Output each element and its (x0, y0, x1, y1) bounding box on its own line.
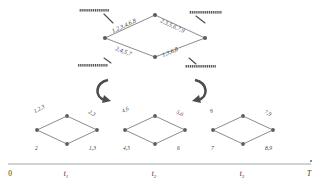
product-edge-label-0: 1,2,3,4,6,8 (111, 18, 137, 34)
diamond-t1-node-left (35, 128, 39, 132)
diamond-t3-node-top (241, 114, 245, 118)
diamond-t2-edge-label-2: 4,5 (123, 145, 130, 151)
bar-bottom-right-pointer (189, 58, 196, 64)
time-tick-label-3: t3 (240, 169, 245, 179)
diamond-t2-node-top (153, 114, 157, 118)
diamond-t1-edge-label-2: 2 (35, 145, 38, 151)
product-node-top (153, 13, 157, 17)
diamond-t2-edge-left-bottom (125, 130, 155, 144)
bar-bottom-left (78, 64, 108, 67)
diamond-t3-node-right (271, 128, 275, 132)
figure-canvas: 1,2,3,4,6,82,3,5,6,7,92,4,5,71,3,6,81,2,… (0, 0, 320, 184)
diamond-t2-edge-bottom-right (155, 130, 185, 144)
diamond-t3-edge-label-3: 8,9 (265, 145, 272, 151)
bar-top-right (189, 11, 222, 14)
diamond-t2-group: 4,65,64,56 (121, 105, 187, 151)
bar-top-left-pointer (104, 14, 113, 23)
diamond-t3-node-left (211, 128, 215, 132)
time-tick-sub-1: 1 (66, 174, 69, 179)
diamond-t3-edge-label-1: 7,9 (264, 109, 273, 118)
lattice-decomposition-figure: 1,2,3,4,6,82,3,5,6,7,92,4,5,71,3,6,81,2,… (0, 0, 320, 184)
diamond-t1-edge-label-0: 1,2,3 (33, 103, 46, 114)
product-node-right (203, 36, 207, 40)
diamond-t2-edge-label-1: 5,6 (176, 109, 185, 118)
timeline-group: 0t1t2t3T (8, 160, 312, 179)
time-tick-label-0: 0 (8, 169, 12, 178)
diamond-t2-edge-label-0: 4,6 (121, 105, 130, 114)
time-tick-label-2: t2 (152, 169, 157, 179)
diamond-t2-node-right (183, 128, 187, 132)
diamond-t1-node-right (95, 128, 99, 132)
diamond-t2-edge-top-right (155, 116, 185, 130)
diamond-t3-group: 87,978,9 (209, 107, 275, 151)
diamond-t1-edge-top-right (67, 116, 97, 130)
time-tick-sub-3: 3 (242, 174, 245, 179)
arrow-right-head (192, 95, 201, 103)
arrow-left-head (102, 95, 111, 103)
diamond-t3-edge-bottom-right (243, 130, 273, 144)
diamond-t1-edge-label-1: 2,3 (88, 109, 97, 118)
bar-top-right-pointer (196, 16, 205, 23)
diamond-t1-edge-left-bottom (37, 130, 67, 144)
diamond-t3-edge-label-0: 8 (209, 107, 214, 114)
diamond-t1-group: 1,2,32,321,3 (33, 103, 99, 151)
bar-bottom-right (185, 65, 216, 68)
time-tick-label-1: t1 (64, 169, 69, 179)
arrow-left-curve (97, 80, 108, 100)
time-axis-end-marker (310, 160, 312, 162)
diamond-t2-node-bottom (153, 142, 157, 146)
diamond-t3-edge-left-top (213, 116, 243, 130)
diamond-t3-edge-label-2: 7 (211, 145, 214, 151)
diamond-t2-edge-label-3: 6 (177, 145, 180, 151)
product-edge-label-3: 1,3,6,8 (161, 46, 179, 58)
decomposition-arrows-group (97, 80, 205, 103)
diamond-t2-node-left (123, 128, 127, 132)
product-edge-label-2: 2,4,5,7 (115, 45, 134, 57)
arrow-right-curve (195, 80, 206, 100)
diamond-t1-edge-left-top (37, 116, 67, 130)
time-tick-sub-2: 2 (154, 174, 157, 179)
product-edge-label-1: 2,3,5,6,7,9 (160, 17, 186, 33)
diamond-t3-edge-top-right (243, 116, 273, 130)
time-tick-label-4: T (307, 169, 312, 178)
diamond-t1-edge-label-3: 1,3 (89, 145, 96, 151)
diamond-t3-node-bottom (241, 142, 245, 146)
bar-bottom-left-pointer (104, 58, 111, 63)
diamond-t1-node-bottom (65, 142, 69, 146)
product-node-bottom (153, 55, 157, 59)
diamond-t2-edge-left-top (125, 116, 155, 130)
bar-top-left (79, 9, 109, 12)
product-edge-left-top (105, 15, 155, 38)
product-lattice-group: 1,2,3,4,6,82,3,5,6,7,92,4,5,71,3,6,8 (103, 13, 207, 59)
diamond-t3-edge-left-bottom (213, 130, 243, 144)
diamond-t1-edge-bottom-right (67, 130, 97, 144)
hatched-annotations-group (78, 9, 222, 68)
product-node-left (103, 36, 107, 40)
diamond-t1-node-top (65, 114, 69, 118)
